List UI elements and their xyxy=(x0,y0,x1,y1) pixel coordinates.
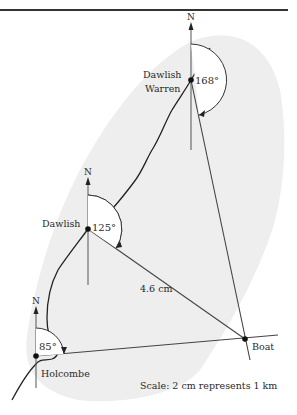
dot-dawlish xyxy=(85,226,91,232)
dot-dawlish-warren xyxy=(188,77,194,83)
distance-label: 4.6 cm xyxy=(140,283,172,294)
bearings-map-diagram: N N N Dawlish Warren Dawlish Holcombe Bo… xyxy=(0,0,297,415)
angle-label-holcombe: 85° xyxy=(39,341,57,352)
label-dawlish-warren-line2: Warren xyxy=(145,83,180,94)
label-boat: Boat xyxy=(252,341,274,352)
north-label: N xyxy=(84,167,92,177)
label-holcombe: Holcombe xyxy=(41,368,90,379)
north-label: N xyxy=(32,296,40,306)
angle-label-dawlish-warren: 168° xyxy=(195,75,219,86)
angle-label-dawlish: 125° xyxy=(92,222,116,233)
label-dawlish-warren-line1: Dawlish xyxy=(143,69,181,80)
north-label: N xyxy=(187,12,195,22)
dot-holcombe xyxy=(33,353,39,359)
scale-text: Scale: 2 cm represents 1 km xyxy=(140,380,277,391)
dot-boat xyxy=(242,336,248,342)
label-dawlish: Dawlish xyxy=(42,218,80,229)
